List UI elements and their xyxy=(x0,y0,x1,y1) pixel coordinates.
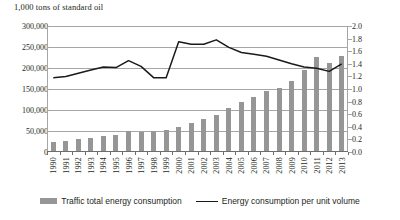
y-axis-right-tickmark xyxy=(348,26,352,27)
y-axis-left-tick-label: 200,000 xyxy=(0,64,48,73)
y-axis-right-tick-label: 2.0 xyxy=(352,22,392,31)
y-axis-right-tickmark xyxy=(348,64,352,65)
y-axis-right-tick-label: 0.6 xyxy=(352,110,392,119)
x-axis-tickmark xyxy=(248,152,249,155)
x-axis-tickmark xyxy=(122,152,123,155)
x-axis-tick-label: 1999 xyxy=(162,157,171,174)
y-axis-left-tick-label: 100,000 xyxy=(0,106,48,115)
x-axis-tick-label: 2011 xyxy=(313,157,322,174)
x-axis-tickmark xyxy=(135,152,136,155)
x-axis-tick-label: 2008 xyxy=(275,157,284,174)
y-axis-right-tick-label: 1.2 xyxy=(352,72,392,81)
x-axis-tickmark xyxy=(198,152,199,155)
x-axis-tick-label: 2003 xyxy=(212,157,221,174)
x-axis-tickmark xyxy=(60,152,61,155)
x-axis-labels: 1990199119921993199419951996199719981999… xyxy=(47,152,348,194)
y-axis-left-tick-label: 250,000 xyxy=(0,43,48,52)
x-axis-tick-label: 2005 xyxy=(237,157,246,174)
y-axis-right-tickmark xyxy=(348,76,352,77)
x-axis-tick-label: 2007 xyxy=(262,157,271,174)
x-axis-tickmark xyxy=(210,152,211,155)
y-axis-right-tick-label: 0.2 xyxy=(352,135,392,144)
x-axis-tick-label: 1995 xyxy=(112,157,121,174)
x-axis-tickmark xyxy=(47,152,48,155)
legend-bar-label: Traffic total energy consumption xyxy=(61,196,181,206)
x-axis-tick-label: 1996 xyxy=(125,157,134,174)
y-axis-right-tickmark xyxy=(348,139,352,140)
x-axis-tickmark xyxy=(235,152,236,155)
x-axis-tickmark xyxy=(147,152,148,155)
x-axis-tick-label: 2010 xyxy=(300,157,309,174)
y-axis-right-tick-label: 1.8 xyxy=(352,34,392,43)
y-axis-right-tick-label: 1.0 xyxy=(352,85,392,94)
y-axis-left-tick-label: 300,000 xyxy=(0,22,48,31)
x-axis-tickmark xyxy=(285,152,286,155)
y-axis-left-tick-label: 50,000 xyxy=(0,127,48,136)
legend-bar-swatch-icon xyxy=(40,198,57,204)
legend-item-line: Energy consumption per unit volume xyxy=(196,196,360,206)
x-axis-tick-label: 2006 xyxy=(250,157,259,174)
x-axis-tick-label: 1998 xyxy=(150,157,159,174)
y-axis-right-tickmark xyxy=(348,39,352,40)
x-axis-tickmark xyxy=(97,152,98,155)
y-axis-left-tick-label: 150,000 xyxy=(0,85,48,94)
x-axis-tick-label: 2004 xyxy=(225,157,234,174)
y-axis-right-tick-label: 0.4 xyxy=(352,122,392,131)
y-axis-right-tick-label: 1.6 xyxy=(352,47,392,56)
x-axis-tick-label: 1997 xyxy=(137,157,146,174)
y-axis-right-tickmark xyxy=(348,127,352,128)
x-axis-tick-label: 2013 xyxy=(338,157,347,174)
x-axis-tick-label: 2000 xyxy=(175,157,184,174)
legend-line-swatch-icon xyxy=(196,201,218,202)
x-axis-tickmark xyxy=(72,152,73,155)
x-axis-tickmark xyxy=(260,152,261,155)
x-axis-tickmark xyxy=(323,152,324,155)
x-axis-tick-label: 1993 xyxy=(87,157,96,174)
y-axis-right-tickmark xyxy=(348,51,352,52)
x-axis-tickmark xyxy=(172,152,173,155)
line-series xyxy=(47,26,348,152)
x-axis-tickmark xyxy=(310,152,311,155)
plot-area xyxy=(47,26,348,152)
y-axis-right-tickmark xyxy=(348,114,352,115)
x-axis-tick-label: 2001 xyxy=(187,157,196,174)
x-axis-tickmark xyxy=(335,152,336,155)
x-axis-tickmark xyxy=(85,152,86,155)
y-axis-right-tick-label: 0.8 xyxy=(352,97,392,106)
x-axis-tick-label: 1990 xyxy=(49,157,58,174)
x-axis-tickmark xyxy=(348,152,349,155)
x-axis-tickmark xyxy=(273,152,274,155)
y-axis-right-tickmark xyxy=(348,89,352,90)
x-axis-tickmark xyxy=(185,152,186,155)
x-axis-tick-label: 2009 xyxy=(288,157,297,174)
x-axis-tick-label: 2012 xyxy=(325,157,334,174)
x-axis-tick-label: 1992 xyxy=(74,157,83,174)
y-axis-right-tick-label: 0.0 xyxy=(352,148,392,157)
x-axis-tickmark xyxy=(110,152,111,155)
chart-container: 1,000 tons of standard oil 050,000100,00… xyxy=(0,0,400,220)
legend-line-label: Energy consumption per unit volume xyxy=(222,196,360,206)
y-axis-right-tick-label: 1.4 xyxy=(352,59,392,68)
x-axis-tickmark xyxy=(160,152,161,155)
x-axis-tick-label: 1991 xyxy=(62,157,71,174)
legend-item-bar: Traffic total energy consumption xyxy=(40,196,181,206)
y-axis-left-tick-label: 0 xyxy=(0,148,48,157)
x-axis-tick-label: 2002 xyxy=(200,157,209,174)
x-axis-tick-label: 1994 xyxy=(99,157,108,174)
x-axis-tickmark xyxy=(223,152,224,155)
x-axis-tickmark xyxy=(298,152,299,155)
y-axis-right-tickmark xyxy=(348,102,352,103)
chart-legend: Traffic total energy consumption Energy … xyxy=(0,196,400,206)
chart-axis-title: 1,000 tons of standard oil xyxy=(14,2,103,12)
